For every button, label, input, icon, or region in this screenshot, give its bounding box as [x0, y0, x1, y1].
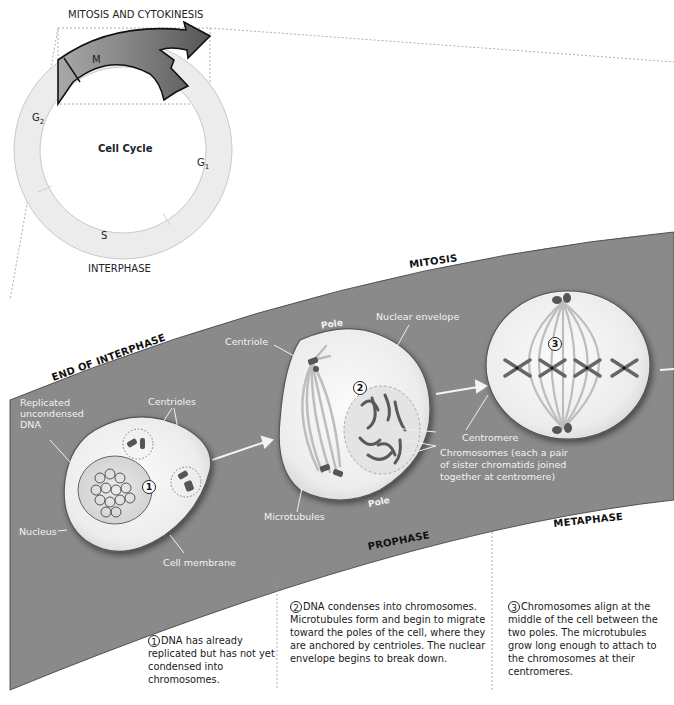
- interphase-label: INTERPHASE: [88, 263, 151, 274]
- s-phase-label: S: [101, 230, 107, 241]
- g2-phase-label: G2: [32, 112, 44, 126]
- nuclear-envelope-label: Nuclear envelope: [376, 311, 459, 322]
- step-number-1: 1: [148, 635, 160, 647]
- step-badge-1: 1: [142, 480, 156, 494]
- nucleus-prophase: [344, 386, 420, 474]
- centromere-label: Centromere: [462, 432, 518, 443]
- nucleus-interphase: [78, 456, 152, 524]
- microtubules-label: Microtubules: [264, 511, 325, 522]
- chromosomes-label: Chromosomes (each a pair of sister chrom…: [440, 447, 568, 483]
- mitosis-cytokinesis-label: MITOSIS AND CYTOKINESIS: [68, 9, 203, 20]
- step-badge-3: 3: [548, 337, 562, 351]
- cell-cycle-title: Cell Cycle: [98, 143, 152, 154]
- cell-membrane-label: Cell membrane: [163, 557, 236, 568]
- step-1-description: 1DNA has already replicated but has not …: [148, 634, 278, 686]
- step-2-description: 2DNA condenses into chromosomes. Microtu…: [290, 600, 486, 665]
- centriole-label: Centriole: [225, 336, 268, 347]
- step-number-3: 3: [508, 601, 520, 613]
- g1-phase-label: G1: [197, 157, 209, 171]
- centrioles-label: Centrioles: [148, 396, 196, 407]
- step-number-2: 2: [290, 601, 302, 613]
- step-3-description: 3Chromosomes align at the middle of the …: [508, 600, 673, 678]
- replicated-dna-label: Replicated uncondensed DNA: [20, 397, 84, 430]
- nucleus-label: Nucleus: [19, 526, 57, 537]
- step-badge-2: 2: [353, 381, 367, 395]
- mitosis-diagram: MITOSIS AND CYTOKINESIS M G2 G1 S Cell C…: [0, 0, 674, 705]
- cell-cycle-ring: [14, 22, 232, 259]
- m-phase-label: M: [92, 54, 101, 65]
